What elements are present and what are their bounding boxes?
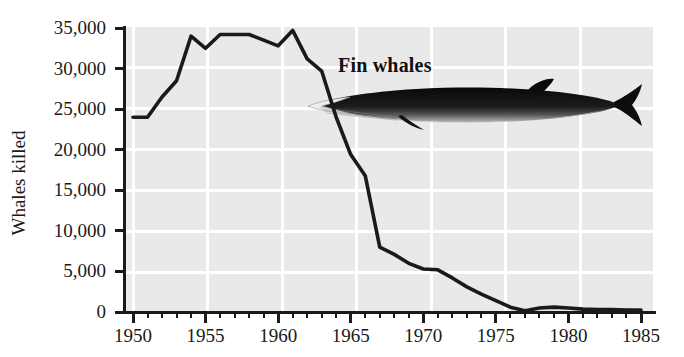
x-axis-tick-label: 1975 <box>456 326 536 345</box>
x-axis-spine <box>123 311 656 314</box>
x-axis-minor-tick <box>379 312 381 318</box>
x-axis-major-tick <box>277 312 280 323</box>
y-axis-tick <box>115 270 125 273</box>
x-axis-minor-tick <box>393 312 395 318</box>
y-axis-tick <box>115 27 125 30</box>
x-axis-minor-tick <box>306 312 308 318</box>
x-axis-minor-tick <box>437 312 439 318</box>
x-axis-minor-tick <box>451 312 453 318</box>
x-axis-minor-tick <box>466 312 468 318</box>
gridline-horizontal <box>124 189 655 192</box>
gridline-vertical <box>206 27 209 312</box>
x-axis-minor-tick <box>538 312 540 318</box>
x-axis-tick-label: 1960 <box>238 326 318 345</box>
gridline-vertical <box>504 27 507 312</box>
gridline-vertical <box>653 27 656 312</box>
x-axis-major-tick <box>349 312 352 323</box>
x-axis-minor-tick <box>234 312 236 318</box>
x-axis-minor-tick <box>625 312 627 318</box>
y-axis-tick <box>115 189 125 192</box>
x-axis-major-tick <box>132 312 135 323</box>
y-axis-tick <box>115 148 125 151</box>
x-axis-minor-tick <box>364 312 366 318</box>
x-axis-tick-label: 1950 <box>93 326 173 345</box>
y-axis-tick-label: 35,000 <box>14 18 106 37</box>
y-axis-tick <box>115 229 125 232</box>
y-axis-tick <box>115 311 125 314</box>
x-axis-tick-label: 1955 <box>166 326 246 345</box>
x-axis-minor-tick <box>321 312 323 318</box>
whales-killed-chart: 05,00010,00015,00020,00025,00030,00035,0… <box>0 0 684 357</box>
y-axis-tick <box>115 67 125 70</box>
x-axis-minor-tick <box>161 312 163 318</box>
gridline-horizontal <box>124 271 655 274</box>
x-axis-minor-tick <box>292 312 294 318</box>
series-annotation-label: Fin whales <box>338 54 432 77</box>
y-axis-tick-label: 30,000 <box>14 59 106 78</box>
x-axis-major-tick <box>204 312 207 323</box>
x-axis-major-tick <box>494 312 497 323</box>
x-axis-minor-tick <box>553 312 555 318</box>
gridline-horizontal <box>124 148 655 151</box>
gridline-vertical <box>579 27 582 312</box>
gridline-vertical <box>281 27 284 312</box>
x-axis-tick-label: 1965 <box>311 326 391 345</box>
x-axis-minor-tick <box>219 312 221 318</box>
x-axis-minor-tick <box>596 312 598 318</box>
y-axis-title: Whales killed <box>8 88 30 278</box>
x-axis-minor-tick <box>509 312 511 318</box>
x-axis-minor-tick <box>248 312 250 318</box>
y-axis-tick <box>115 108 125 111</box>
x-axis-tick-label: 1970 <box>383 326 463 345</box>
x-axis-minor-tick <box>611 312 613 318</box>
x-axis-minor-tick <box>147 312 149 318</box>
x-axis-minor-tick <box>335 312 337 318</box>
x-axis-tick-label: 1985 <box>601 326 681 345</box>
x-axis-major-tick <box>567 312 570 323</box>
x-axis-minor-tick <box>263 312 265 318</box>
fin-whale-illustration <box>306 76 654 136</box>
gridline-horizontal <box>124 230 655 233</box>
x-axis-minor-tick <box>408 312 410 318</box>
x-axis-major-tick <box>422 312 425 323</box>
gridline-vertical <box>132 27 135 312</box>
x-axis-minor-tick <box>176 312 178 318</box>
x-axis-minor-tick <box>524 312 526 318</box>
x-axis-minor-tick <box>582 312 584 318</box>
x-axis-minor-tick <box>480 312 482 318</box>
x-axis-major-tick <box>640 312 643 323</box>
y-axis-tick-label: 0 <box>14 302 106 321</box>
x-axis-minor-tick <box>190 312 192 318</box>
x-axis-tick-label: 1980 <box>528 326 608 345</box>
